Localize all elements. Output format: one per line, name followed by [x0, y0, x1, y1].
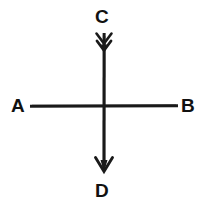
figure-background: [0, 0, 202, 207]
diagram-canvas: [0, 0, 202, 207]
vertical-axis-line: [104, 33, 105, 170]
label-d: D: [95, 181, 109, 200]
label-a: A: [11, 96, 25, 115]
perpendicular-axes-figure: A B C D: [0, 0, 202, 207]
label-c: C: [95, 7, 109, 26]
label-b: B: [181, 96, 195, 115]
